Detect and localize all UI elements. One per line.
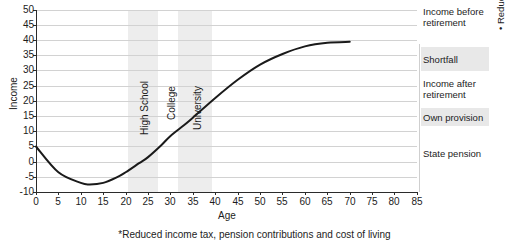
x-tick-label: 15 [91,196,115,207]
x-tick-label: 55 [270,196,294,207]
y-tick-label: 50 [2,5,34,15]
x-axis-title: Age [36,210,418,221]
band-label-high-school: High School [139,81,150,135]
legend-label-income-before: Income before retirement [423,6,489,28]
y-tick-label: 45 [2,20,34,30]
y-tick-label: 0 [2,157,34,167]
gridline-minus5 [36,177,417,178]
legend-label-state-pension: State pension [423,148,489,159]
band-label-college: College [166,86,177,120]
x-tick-label: 0 [24,196,48,207]
y-tick-label: 35 [2,50,34,60]
y-axis-line [36,10,37,193]
x-tickmark [215,192,216,195]
y-tick-label: 40 [2,35,34,45]
x-tick-label: 20 [114,196,138,207]
gridline-25 [36,86,417,87]
x-tick-label: 70 [338,196,362,207]
legend-divider [419,44,420,192]
x-tick-label: 30 [158,196,182,207]
legend-panel: Income before retirement Shortfall Incom… [421,0,491,200]
x-tickmark [350,192,351,195]
gridline-35 [36,55,417,56]
chart-footnote: *Reduced income tax, pension contributio… [0,229,509,240]
x-tickmark [394,192,395,195]
y-axis-title: Income [8,64,19,124]
x-tick-label: 50 [248,196,272,207]
gridline-45 [36,25,417,26]
x-tick-label: 60 [293,196,317,207]
x-tickmark [417,192,418,195]
gridline-40 [36,40,417,41]
x-tickmark [148,192,149,195]
x-tick-label: 5 [46,196,70,207]
income-lifecycle-chart: 50 45 40 35 30 25 20 15 10 5 0 -5 -10 In… [0,0,509,244]
legend-label-own-provision: Own provision [423,112,489,123]
gridline-0 [36,162,417,163]
x-tick-label: 80 [382,196,406,207]
x-tickmark [126,192,127,195]
y-tick-label: -5 [2,172,34,182]
gridline-50 [36,10,417,11]
x-tick-label: 75 [360,196,384,207]
legend-label-income-after: Income after retirement [423,78,489,100]
band-label-university: University [192,86,203,130]
y-tick-label: 10 [2,126,34,136]
x-tick-label: 10 [69,196,93,207]
x-tickmark [81,192,82,195]
x-tickmark [282,192,283,195]
gridline-15 [36,116,417,117]
x-tickmark [36,192,37,195]
x-tick-label: 25 [136,196,160,207]
x-tickmark [260,192,261,195]
x-tickmark [58,192,59,195]
gridline-20 [36,101,417,102]
x-tickmark [327,192,328,195]
x-tickmark [170,192,171,195]
gridline-5 [36,146,417,147]
legend-label-shortfall: Shortfall [423,54,489,65]
gridline-30 [36,70,417,71]
x-tickmark [305,192,306,195]
x-tick-label: 45 [226,196,250,207]
x-tickmark [193,192,194,195]
x-tickmark [103,192,104,195]
x-tick-label: 65 [315,196,339,207]
x-tick-label: 35 [181,196,205,207]
x-tickmark [238,192,239,195]
legend-reduction-note: • Reduction in expenditure [495,0,506,30]
x-tick-label: 40 [203,196,227,207]
y-tick-label: 5 [2,141,34,151]
x-tickmark [372,192,373,195]
gridline-10 [36,131,417,132]
x-axis-line [36,192,418,193]
